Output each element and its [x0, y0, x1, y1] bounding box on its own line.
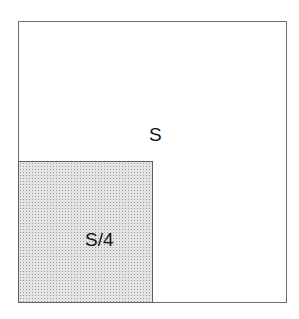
outer-region-label: S	[149, 125, 162, 144]
inner-region-label: S/4	[85, 230, 114, 249]
